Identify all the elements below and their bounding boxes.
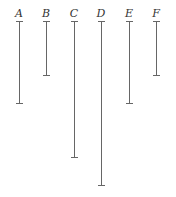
segment-line — [46, 21, 47, 75]
bottom-tick — [71, 157, 78, 158]
segment-label: B — [39, 8, 53, 19]
bottom-tick — [98, 185, 105, 186]
segment-line — [156, 21, 157, 75]
bottom-tick — [16, 103, 23, 104]
bottom-tick — [43, 75, 50, 76]
top-tick — [71, 21, 78, 22]
segment-label: D — [94, 8, 108, 19]
bottom-tick — [126, 103, 133, 104]
segment-line — [74, 21, 75, 157]
top-tick — [16, 21, 23, 22]
segment-label: A — [12, 8, 26, 19]
segment-label: F — [149, 8, 163, 19]
top-tick — [126, 21, 133, 22]
bottom-tick — [153, 75, 160, 76]
top-tick — [153, 21, 160, 22]
segment-label: E — [122, 8, 136, 19]
segment-line — [129, 21, 130, 103]
segment-label: C — [67, 8, 81, 19]
top-tick — [98, 21, 105, 22]
top-tick — [43, 21, 50, 22]
segment-line — [101, 21, 102, 185]
segment-line — [19, 21, 20, 103]
